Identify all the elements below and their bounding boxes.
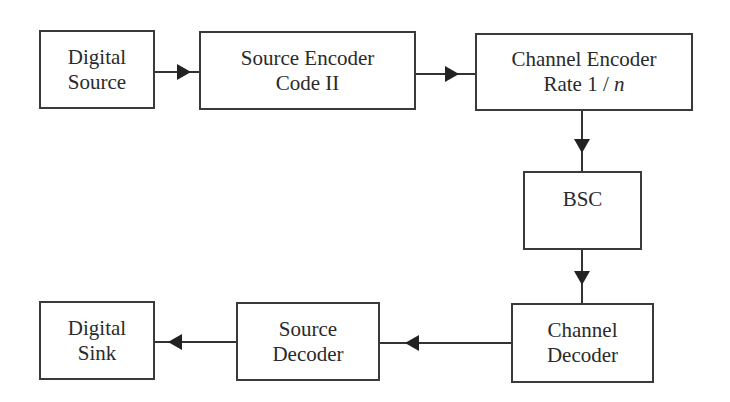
block-label: Source — [279, 317, 337, 342]
arrowhead-right-icon — [177, 64, 191, 80]
block-label: Channel Encoder — [511, 47, 656, 72]
block-label-rate: Rate 1 / n — [543, 72, 624, 97]
block-label: Digital — [68, 316, 126, 341]
channel-decoder-block: Channel Decoder — [511, 303, 654, 383]
digital-source-block: Digital Source — [39, 30, 155, 109]
arrowhead-right-icon — [445, 66, 459, 82]
rate-variable: n — [614, 72, 625, 96]
arrowhead-down-icon — [574, 139, 590, 153]
block-label: Code II — [276, 71, 340, 96]
rate-text: Rate 1 / — [543, 72, 614, 96]
arrowhead-down-icon — [574, 271, 590, 285]
arrowhead-left-icon — [405, 335, 419, 351]
block-label: Sink — [78, 341, 117, 366]
block-label: Source — [68, 70, 126, 95]
channel-encoder-block: Channel Encoder Rate 1 / n — [475, 33, 693, 111]
source-decoder-block: Source Decoder — [236, 302, 380, 381]
block-label: Decoder — [272, 342, 343, 367]
block-label: Digital — [68, 45, 126, 70]
block-label: Source Encoder — [241, 46, 375, 71]
source-encoder-block: Source Encoder Code II — [199, 31, 416, 110]
bsc-block: BSC — [523, 171, 642, 250]
block-label: Channel — [548, 318, 618, 343]
arrowhead-left-icon — [168, 334, 182, 350]
block-label: Decoder — [547, 343, 618, 368]
block-label: BSC — [563, 187, 603, 212]
digital-sink-block: Digital Sink — [39, 301, 155, 380]
